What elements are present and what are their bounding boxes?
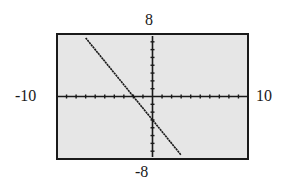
x-max-label: 10 (256, 88, 272, 104)
plot-area (56, 33, 249, 160)
x-min-label: -10 (15, 88, 36, 104)
graphing-calculator-screen (56, 33, 249, 160)
y-max-label: 8 (145, 12, 153, 28)
y-min-label: -8 (135, 164, 148, 180)
